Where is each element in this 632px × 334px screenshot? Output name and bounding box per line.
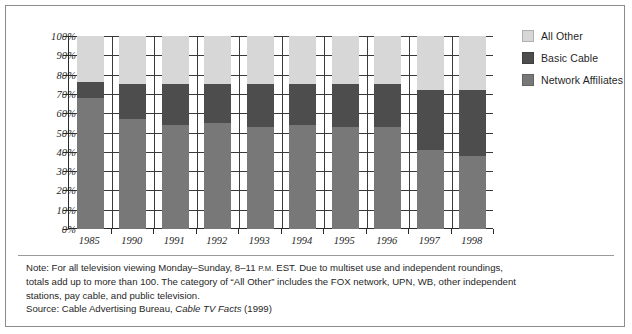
bar-segment-all-other [77, 36, 104, 82]
x-axis-tick-label: 1994 [291, 235, 312, 246]
x-axis-tick-mark [408, 229, 409, 234]
x-axis-tick-mark [323, 229, 324, 234]
bar-group [332, 36, 359, 228]
bar-segment-all-other [119, 36, 146, 84]
bar-segment-basic-cable [374, 84, 401, 126]
legend-item-label: Network Affiliates [541, 74, 623, 86]
bar-segment-network-affiliates [204, 123, 231, 229]
bar-segment-network-affiliates [374, 127, 401, 229]
x-axis-tick-mark [366, 229, 367, 234]
bar-group [77, 36, 104, 228]
bar-group [374, 36, 401, 228]
bar-segment-basic-cable [204, 84, 231, 123]
y-axis-tick-label: 20% [30, 185, 76, 196]
y-axis-tick-label: 100% [30, 31, 76, 42]
x-axis-tick-label: 1985 [79, 235, 100, 246]
bar-segment-basic-cable [417, 90, 444, 150]
y-axis-tick-mark [63, 55, 68, 56]
bar-segment-network-affiliates [289, 125, 316, 229]
legend-item: Basic Cable [522, 52, 622, 64]
source-title: Cable TV Facts [175, 303, 241, 314]
bar-segment-basic-cable [247, 84, 274, 126]
y-axis-tick-label: 40% [30, 146, 76, 157]
bar-segment-network-affiliates [162, 125, 189, 229]
bar-group [247, 36, 274, 228]
y-axis-tick-label: 60% [30, 108, 76, 119]
bar-segment-basic-cable [119, 84, 146, 119]
y-axis-tick-mark [63, 94, 68, 95]
chart-legend: All OtherBasic CableNetwork Affiliates [522, 30, 622, 96]
figure-container: 100%90%80%70%60%50%40%30%20%10%0% 198519… [5, 5, 625, 327]
y-axis-tick-mark [63, 36, 68, 37]
legend-item-label: Basic Cable [541, 52, 598, 64]
note-line-3: stations, pay cable, and public televisi… [26, 289, 496, 302]
bar-group [417, 36, 444, 228]
note-line-1-part-b: EST. Due to multiset use and independent… [274, 262, 503, 273]
bar-segment-basic-cable [332, 84, 359, 126]
bar-segment-network-affiliates [332, 127, 359, 229]
source-line: Source: Cable Advertising Bureau, Cable … [26, 302, 496, 315]
bar-group [162, 36, 189, 228]
chart-region: 100%90%80%70%60%50%40%30%20%10%0% 198519… [16, 14, 511, 252]
bar-group [459, 36, 486, 228]
bar-segment-all-other [332, 36, 359, 84]
x-axis-tick-label: 1995 [334, 235, 355, 246]
x-axis-tick-label: 1993 [249, 235, 270, 246]
bar-segment-all-other [247, 36, 274, 84]
note-line-2: totals add up to more than 100. The cate… [26, 275, 496, 288]
x-axis-tick-label: 1990 [121, 235, 142, 246]
note-line-1: Note: For all television viewing Monday–… [26, 261, 496, 275]
x-axis-tick-mark [281, 229, 282, 234]
bar-segment-all-other [289, 36, 316, 84]
bar-segment-all-other [417, 36, 444, 90]
y-axis-tick-label: 70% [30, 88, 76, 99]
plot-area [68, 36, 493, 229]
x-axis-tick-label: 1998 [461, 235, 482, 246]
bars-layer [69, 36, 493, 228]
y-axis-tick-mark [63, 152, 68, 153]
y-axis-tick-label: 50% [30, 127, 76, 138]
y-axis-tick-mark [63, 75, 68, 76]
y-axis-tick-label: 80% [30, 69, 76, 80]
y-axis-tick-label: 90% [30, 50, 76, 61]
x-axis-tick-label: 1992 [206, 235, 227, 246]
bar-segment-basic-cable [289, 84, 316, 125]
footnote-divider [18, 255, 614, 256]
x-axis-tick-mark [111, 229, 112, 234]
y-axis-tick-mark [63, 171, 68, 172]
y-axis-tick-mark [63, 190, 68, 191]
y-axis-tick-label: 0% [30, 224, 76, 235]
y-axis-tick-mark [63, 133, 68, 134]
y-axis-tick-mark [63, 229, 68, 230]
source-suffix: (1999) [241, 303, 271, 314]
bar-segment-network-affiliates [119, 119, 146, 229]
x-axis-tick-mark [196, 229, 197, 234]
bar-segment-network-affiliates [247, 127, 274, 229]
bar-segment-network-affiliates [459, 156, 486, 229]
bar-segment-network-affiliates [417, 150, 444, 229]
bar-segment-basic-cable [77, 82, 104, 97]
y-axis-tick-label: 10% [30, 204, 76, 215]
y-axis-tick-mark [63, 210, 68, 211]
bar-group [204, 36, 231, 228]
x-axis-tick-label: 1997 [419, 235, 440, 246]
bar-segment-all-other [162, 36, 189, 84]
bar-segment-basic-cable [162, 84, 189, 125]
legend-swatch-icon [522, 52, 534, 64]
legend-swatch-icon [522, 30, 534, 42]
bar-segment-all-other [459, 36, 486, 90]
source-prefix: Source: Cable Advertising Bureau, [26, 303, 175, 314]
y-axis-tick-label: 30% [30, 166, 76, 177]
bar-segment-all-other [374, 36, 401, 84]
note-line-1-smallcaps: P.M. [258, 264, 273, 273]
x-axis-tick-label: 1991 [164, 235, 185, 246]
legend-item: All Other [522, 30, 622, 42]
bar-segment-all-other [204, 36, 231, 84]
bar-group [289, 36, 316, 228]
bar-group [119, 36, 146, 228]
bar-segment-basic-cable [459, 90, 486, 156]
x-axis-tick-mark [451, 229, 452, 234]
x-axis-tick-mark [493, 229, 494, 234]
legend-item-label: All Other [541, 30, 583, 42]
x-axis-tick-mark [153, 229, 154, 234]
